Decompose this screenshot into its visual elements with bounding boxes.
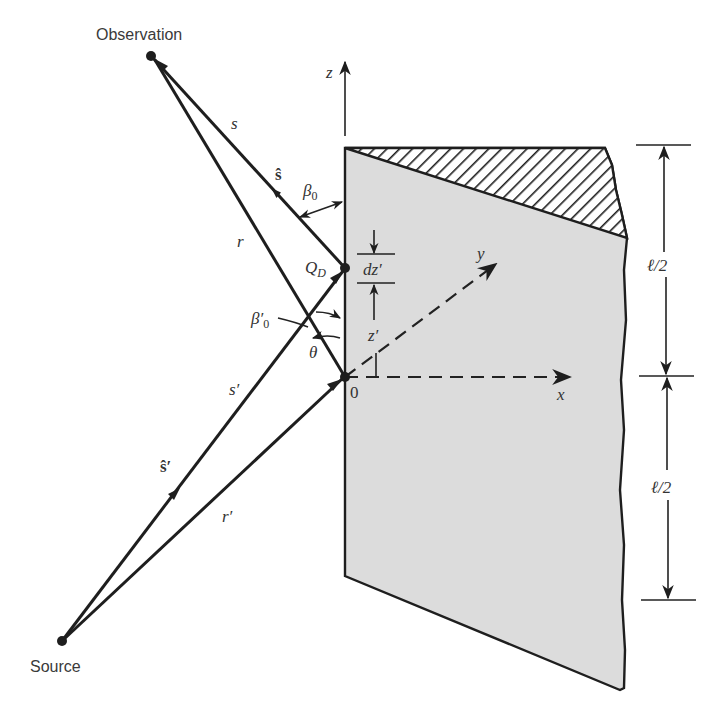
s-hat-label: ŝ [275, 165, 282, 184]
x-axis-label: x [556, 385, 565, 404]
beta0-arc [300, 202, 342, 217]
theta-arc [313, 336, 340, 338]
upper-half-length-label: ℓ/2 [647, 256, 668, 275]
y-axis-label: y [475, 244, 485, 263]
vector-s [153, 58, 345, 268]
source-point [57, 636, 67, 646]
vector-s-prime [62, 271, 343, 641]
origin-point [340, 372, 350, 382]
z-axis-label: z [325, 63, 333, 82]
beta0-prime-arc [316, 312, 340, 318]
plate-surface [345, 148, 627, 690]
source-label: Source [30, 658, 81, 675]
qd-point [340, 263, 350, 273]
vector-r-prime [62, 379, 342, 641]
beta0-label: β0 [302, 181, 317, 203]
diffraction-geometry-diagram: z x y Observation Source QD 0 s ŝ r s′ ŝ… [0, 0, 722, 714]
qd-arrowhead-icon [330, 271, 343, 284]
observation-label: Observation [96, 26, 182, 43]
r-prime-label: r′ [222, 507, 233, 526]
s-label: s [231, 114, 238, 133]
dz-prime-label: dz′ [363, 260, 382, 279]
vector-r [155, 60, 345, 377]
s-hat-prime-label: ŝ′ [160, 457, 171, 476]
theta-label: θ [309, 343, 317, 362]
origin-label: 0 [350, 383, 359, 402]
s-prime-label: s′ [229, 380, 240, 399]
z-prime-label: z′ [367, 326, 379, 345]
half-plane [345, 148, 627, 690]
r-label: r [237, 232, 244, 251]
beta0-prime-label: β′0 [250, 309, 269, 331]
qd-label: QD [305, 258, 326, 280]
observation-point [146, 51, 156, 61]
lower-half-length-label: ℓ/2 [651, 478, 672, 497]
